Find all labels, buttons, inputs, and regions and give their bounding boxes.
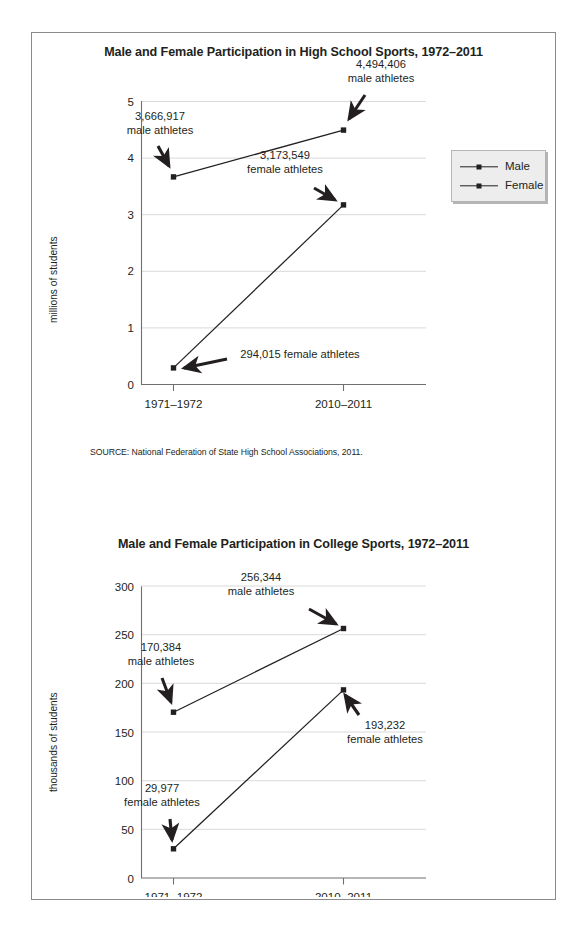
data-point-male-1971 <box>171 174 176 179</box>
axes-high-school <box>141 101 426 385</box>
y-tick-label: 1 <box>128 322 134 334</box>
arrow-male-2010 <box>349 95 365 119</box>
arrow-female-2010 <box>345 695 359 715</box>
series-male-college <box>171 626 346 715</box>
annotation-male-2010-line2: male athletes <box>228 585 295 597</box>
annotation-male-2010-line2: male athletes <box>348 72 415 84</box>
legend-label-female: Female <box>505 180 543 192</box>
x-tick-label: 1971–1972 <box>144 890 202 897</box>
y-tick-label: 5 <box>128 96 134 108</box>
series-line-male <box>174 629 344 713</box>
annotation-female-2010-line2: female athletes <box>247 163 323 175</box>
y-tick-label: 2 <box>128 265 134 277</box>
y-tick-label: 300 <box>115 581 134 593</box>
data-point-female-2010 <box>341 687 346 692</box>
y-tick-label: 200 <box>115 678 134 690</box>
series-line-female <box>174 205 344 368</box>
annotation-female-1971-line2: female athletes <box>124 796 200 808</box>
annotation-female-2010-line2: female athletes <box>347 733 423 745</box>
data-point-female-1971 <box>171 365 176 370</box>
x-tick-labels-college: 1971–1972 2010–2011 <box>144 890 372 897</box>
source-note-high-school: SOURCE: National Federation of State Hig… <box>90 447 363 457</box>
y-tick-label: 4 <box>128 152 135 164</box>
arrow-male-2010 <box>309 609 336 624</box>
x-tick-label: 2010–2011 <box>315 890 372 897</box>
legend-line-marker-female-icon <box>460 181 498 191</box>
x-tick-labels-high-school: 1971–1972 2010–2011 <box>144 397 372 410</box>
chart-high-school: Male and Female Participation in High Sc… <box>32 33 555 467</box>
annotation-female-2010-line1: 3,173,549 <box>260 149 310 161</box>
annotation-female-2010-line1: 193,232 <box>365 719 405 731</box>
y-tick-labels-college: 300 250 200 150 100 50 0 <box>115 581 134 885</box>
data-point-male-2010 <box>341 127 346 132</box>
plot-svg-college: 300 250 200 150 100 50 0 1971–1972 2010–… <box>32 537 557 897</box>
x-tick-label: 2010–2011 <box>315 397 372 410</box>
annotation-male-1971-line1: 170,384 <box>141 641 181 653</box>
legend-high-school: Male Female <box>451 150 546 202</box>
data-point-male-1971 <box>171 710 176 715</box>
legend-label-male: Male <box>505 161 530 173</box>
annotation-male-2010-line1: 256,344 <box>241 571 281 583</box>
annotation-male-2010-line1: 4,494,406 <box>356 58 406 70</box>
arrow-female-1971 <box>184 359 227 368</box>
arrow-female-1971 <box>170 819 172 840</box>
x-ticks-high-school <box>174 385 344 392</box>
data-point-female-2010 <box>341 202 346 207</box>
annotation-female-1971-line1: 29,977 <box>145 782 179 794</box>
y-tick-label: 0 <box>128 873 134 885</box>
y-tick-label: 100 <box>115 775 134 787</box>
series-female-college <box>171 687 346 851</box>
arrow-female-2010 <box>314 188 335 200</box>
plot-area-college: 300 250 200 150 100 50 0 1971–1972 2010–… <box>32 537 555 897</box>
chart-college: Male and Female Participation in College… <box>32 467 555 901</box>
legend-line-marker-male-icon <box>460 162 498 172</box>
annotation-male-1971-line2: male athletes <box>128 655 195 667</box>
legend-row-male[interactable]: Male <box>460 157 535 176</box>
y-tick-label: 3 <box>128 209 134 221</box>
annotation-female-1971-line1: 294,015 female athletes <box>240 348 360 360</box>
y-tick-label: 0 <box>128 379 134 391</box>
plot-area-high-school: 5 4 3 2 1 0 1971–1972 2010–2011 <box>32 33 555 433</box>
x-ticks-college <box>174 878 344 885</box>
series-line-female <box>174 690 344 849</box>
y-tick-labels-high-school: 5 4 3 2 1 0 <box>128 96 135 391</box>
series-female-high-school <box>171 202 346 370</box>
y-tick-label: 150 <box>115 727 134 739</box>
legend-row-female[interactable]: Female <box>460 176 535 195</box>
data-point-female-1971 <box>171 846 176 851</box>
data-point-male-2010 <box>341 626 346 631</box>
arrow-male-1971 <box>158 146 169 166</box>
annotation-male-1971-line2: male athletes <box>127 124 194 136</box>
x-tick-label: 1971–1972 <box>144 397 202 410</box>
y-tick-label: 250 <box>115 629 134 641</box>
annotation-male-1971-line1: 3,666,917 <box>135 110 185 122</box>
arrow-male-1971 <box>162 678 171 702</box>
plot-svg-high-school: 5 4 3 2 1 0 1971–1972 2010–2011 <box>32 33 557 433</box>
y-tick-label: 50 <box>121 824 134 836</box>
figure-frame: Male and Female Participation in High Sc… <box>31 32 556 900</box>
